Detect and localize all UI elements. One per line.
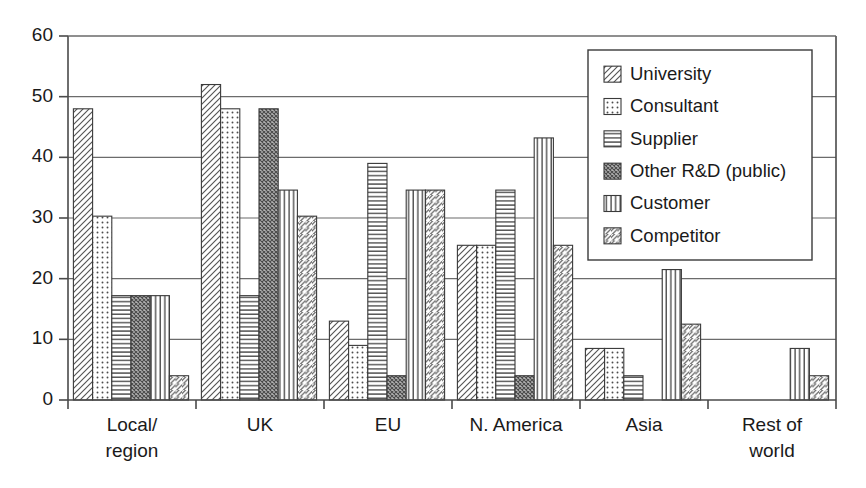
y-axis-tick-label: 0 <box>42 388 53 409</box>
bar <box>221 109 240 400</box>
bar <box>93 216 112 400</box>
bar <box>297 216 316 400</box>
bar <box>112 296 131 400</box>
y-axis-tick-label: 40 <box>32 145 53 166</box>
y-axis-tick-labels-group: 0102030405060 <box>32 24 53 409</box>
legend-item[interactable]: Consultant <box>604 95 718 116</box>
x-axis-tick-label: Asia <box>626 414 663 435</box>
legend-item-label: Supplier <box>630 128 698 149</box>
legend-item-label: University <box>630 63 712 84</box>
legend-item[interactable]: Other R&D (public) <box>604 160 786 181</box>
x-axis-tick-labels-group: Local/regionUKEUN. AmericaAsiaRest ofwor… <box>106 414 803 461</box>
bar <box>553 245 572 400</box>
x-axis-tick-label: region <box>106 440 159 461</box>
x-axis-tick-label: UK <box>247 414 274 435</box>
bar <box>605 348 624 400</box>
bar <box>457 245 476 400</box>
legend-item[interactable]: Supplier <box>604 128 698 149</box>
legend-item[interactable]: University <box>604 63 712 84</box>
bar <box>387 376 406 400</box>
bar <box>349 345 368 400</box>
x-axis-tick-label: EU <box>375 414 401 435</box>
bar <box>662 270 681 400</box>
bar <box>496 190 515 400</box>
chart-canvas: 0102030405060 Local/regionUKEUN. America… <box>0 0 866 488</box>
legend-item-label: Competitor <box>630 225 720 246</box>
bar <box>790 348 809 400</box>
x-axis-tick-label: N. America <box>470 414 563 435</box>
bar <box>73 109 92 400</box>
y-axis-tick-label: 60 <box>32 24 53 45</box>
bar <box>681 324 700 400</box>
bar-chart-figure: 0102030405060 Local/regionUKEUN. America… <box>0 0 866 488</box>
bar <box>624 376 643 400</box>
bar <box>201 85 220 400</box>
bar <box>278 190 297 400</box>
bar <box>259 109 278 400</box>
x-axis-tick-label: Rest of <box>742 414 803 435</box>
legend-swatch-diagonal-slash-icon <box>604 228 621 244</box>
bar <box>240 296 259 400</box>
bar <box>329 321 348 400</box>
y-axis-tick-label: 20 <box>32 267 53 288</box>
bar <box>425 190 444 400</box>
legend-swatch-vertical-lines-icon <box>604 196 621 212</box>
bar <box>131 296 150 400</box>
legend-swatch-diagonal-backslash-icon <box>604 66 621 82</box>
legend-item[interactable]: Competitor <box>604 225 720 246</box>
x-axis-tick-label: Local/ <box>107 414 158 435</box>
legend-item-label: Customer <box>630 192 710 213</box>
bar <box>809 376 828 400</box>
bar <box>585 348 604 400</box>
bar <box>515 376 534 400</box>
legend-item-label: Consultant <box>630 95 718 116</box>
y-axis-tick-label: 50 <box>32 85 53 106</box>
x-axis-ticks-group <box>68 400 836 409</box>
y-axis-tick-label: 10 <box>32 327 53 348</box>
bar <box>477 245 496 400</box>
legend-item-label: Other R&D (public) <box>630 160 786 181</box>
bar <box>534 138 553 400</box>
legend: UniversityConsultantSupplierOther R&D (p… <box>588 50 812 260</box>
legend-swatch-cross-hatch-icon <box>604 163 621 179</box>
legend-swatch-horizontal-lines-icon <box>604 131 621 147</box>
x-axis-tick-label: world <box>748 440 794 461</box>
bar <box>169 376 188 400</box>
legend-swatch-dots-icon <box>604 99 621 115</box>
bar <box>150 296 169 400</box>
bar <box>406 190 425 400</box>
bar <box>368 163 387 400</box>
y-axis-tick-label: 30 <box>32 206 53 227</box>
legend-item[interactable]: Customer <box>604 192 710 213</box>
y-axis-ticks-group <box>59 36 68 400</box>
